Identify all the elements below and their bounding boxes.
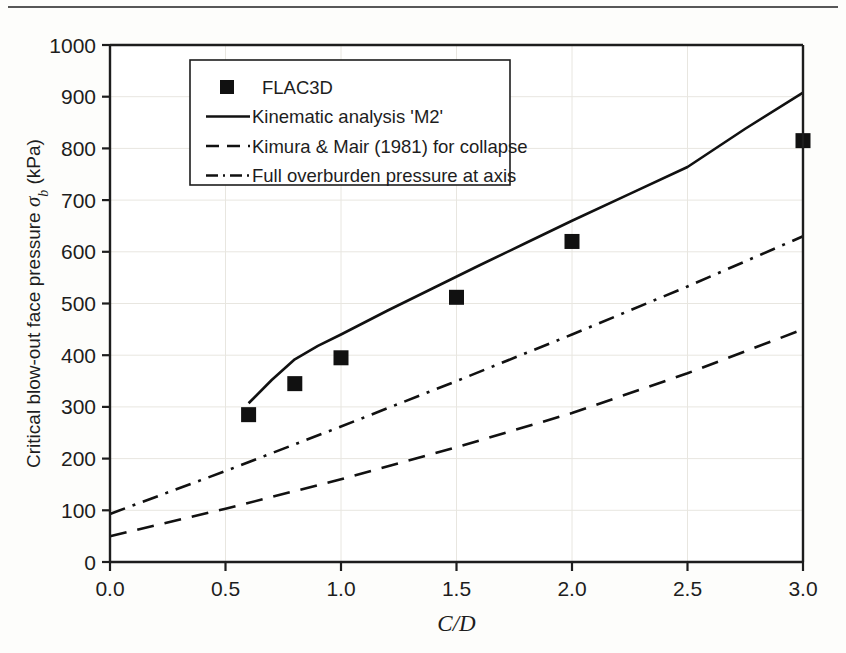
y-axis-tick-label: 400 bbox=[61, 344, 96, 367]
chart-figure: 010020030040050060070080090010000.00.51.… bbox=[0, 0, 846, 653]
chart-canvas: 010020030040050060070080090010000.00.51.… bbox=[0, 0, 846, 653]
legend-marker-square bbox=[220, 80, 234, 94]
x-axis-tick-label: 1.0 bbox=[326, 577, 355, 600]
y-axis-tick-label: 0 bbox=[84, 551, 96, 574]
y-axis-tick-label: 300 bbox=[61, 395, 96, 418]
data-point-marker bbox=[287, 376, 302, 391]
x-axis-tick-label: 0.5 bbox=[211, 577, 240, 600]
x-axis-tick-label: 2.5 bbox=[673, 577, 702, 600]
x-axis-title: C/D bbox=[437, 611, 476, 636]
data-point-marker bbox=[565, 234, 580, 249]
y-axis-tick-label: 100 bbox=[61, 499, 96, 522]
legend-item-label: Kinematic analysis 'M2' bbox=[252, 106, 443, 127]
x-axis-tick-label: 3.0 bbox=[788, 577, 817, 600]
y-axis-tick-label: 200 bbox=[61, 447, 96, 470]
x-axis-tick-label: 1.5 bbox=[442, 577, 471, 600]
y-axis-tick-label: 700 bbox=[61, 189, 96, 212]
legend-item-label: Full overburden pressure at axis bbox=[252, 165, 516, 186]
y-axis-title: Critical blow-out face pressure σb (kPa) bbox=[21, 139, 51, 468]
legend-item-label: Kimura & Mair (1981) for collapse bbox=[252, 136, 528, 157]
data-point-marker bbox=[334, 350, 349, 365]
y-axis-tick-label: 900 bbox=[61, 85, 96, 108]
y-axis-tick-label: 600 bbox=[61, 240, 96, 263]
x-axis-tick-label: 0.0 bbox=[95, 577, 124, 600]
y-axis-tick-label: 800 bbox=[61, 137, 96, 160]
x-axis-tick-label: 2.0 bbox=[557, 577, 586, 600]
data-point-marker bbox=[449, 290, 464, 305]
y-axis-tick-label: 1000 bbox=[49, 34, 96, 57]
y-axis-tick-label: 500 bbox=[61, 292, 96, 315]
data-point-marker bbox=[241, 407, 256, 422]
legend-item-label: FLAC3D bbox=[262, 77, 333, 98]
